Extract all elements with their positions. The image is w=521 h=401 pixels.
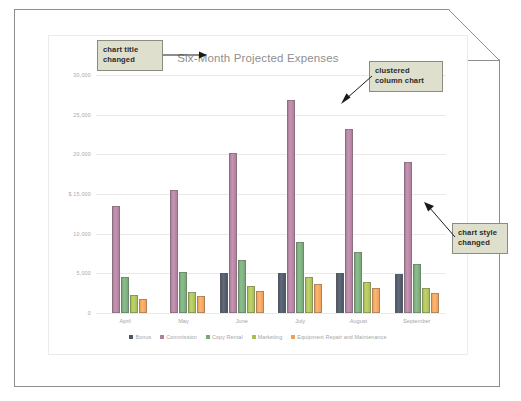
- legend-item[interactable]: Copy Rental: [206, 334, 243, 340]
- bar-equipment-repair-and-maintenance[interactable]: [372, 288, 380, 313]
- y-axis-tick-label: 0: [88, 310, 91, 316]
- bar-cluster[interactable]: April: [96, 75, 154, 313]
- callout-clustered-column-chart: clustered column chart: [369, 61, 443, 92]
- bar-copy-rental[interactable]: [354, 252, 362, 313]
- bar-commission[interactable]: [404, 162, 412, 313]
- y-axis-tick-label: 5,000: [77, 270, 92, 276]
- x-axis-tick-label: July: [295, 318, 305, 324]
- callout-chart-style-changed: chart style changed: [452, 223, 508, 254]
- y-axis-tick-label: 25,000: [73, 112, 91, 118]
- bar-commission[interactable]: [229, 153, 237, 313]
- gridline: [96, 313, 446, 314]
- y-axis-tick-label: 10,000: [73, 231, 91, 237]
- x-axis-tick-label: June: [236, 318, 248, 324]
- bar-cluster[interactable]: May: [154, 75, 212, 313]
- legend-item[interactable]: Commission: [160, 334, 197, 340]
- legend-label: Equipment Repair and Maintenance: [297, 334, 386, 340]
- bar-copy-rental[interactable]: [413, 264, 421, 313]
- bar-cluster[interactable]: September: [388, 75, 446, 313]
- legend-item[interactable]: Bonus: [129, 334, 151, 340]
- bar-copy-rental[interactable]: [238, 260, 246, 313]
- bar-cluster[interactable]: July: [271, 75, 329, 313]
- legend-swatch-icon: [206, 335, 210, 339]
- callout-chart-title-changed: chart title changed: [97, 40, 163, 71]
- bar-equipment-repair-and-maintenance[interactable]: [256, 291, 264, 313]
- legend-swatch-icon: [160, 335, 164, 339]
- legend-swatch-icon: [291, 335, 295, 339]
- bar-copy-rental[interactable]: [296, 242, 304, 313]
- legend-label: Copy Rental: [212, 334, 243, 340]
- bar-marketing[interactable]: [363, 282, 371, 313]
- bar-commission[interactable]: [345, 129, 353, 313]
- bar-clusters: AprilMayJuneJulyAugustSeptember: [96, 75, 446, 313]
- bar-bonus[interactable]: [336, 273, 344, 313]
- chart-legend[interactable]: BonusCommissionCopy RentalMarketingEquip…: [49, 334, 467, 340]
- x-axis-tick-label: September: [403, 318, 430, 324]
- bar-equipment-repair-and-maintenance[interactable]: [139, 299, 147, 313]
- bar-copy-rental[interactable]: [121, 277, 129, 313]
- legend-label: Marketing: [258, 334, 283, 340]
- bar-cluster[interactable]: June: [213, 75, 271, 313]
- y-axis-tick-label: $ 15,000: [68, 191, 91, 197]
- bar-equipment-repair-and-maintenance[interactable]: [314, 284, 322, 313]
- bar-equipment-repair-and-maintenance[interactable]: [197, 296, 205, 313]
- bar-marketing[interactable]: [130, 295, 138, 313]
- legend-swatch-icon: [252, 335, 256, 339]
- bar-marketing[interactable]: [247, 286, 255, 313]
- bar-bonus[interactable]: [395, 274, 403, 313]
- legend-label: Commission: [166, 334, 197, 340]
- bar-commission[interactable]: [287, 100, 295, 313]
- legend-item[interactable]: Marketing: [252, 334, 283, 340]
- bar-marketing[interactable]: [188, 292, 196, 313]
- bar-bonus[interactable]: [278, 273, 286, 313]
- bar-marketing[interactable]: [305, 277, 313, 313]
- legend-swatch-icon: [129, 335, 133, 339]
- y-axis-tick-label: 30,000: [73, 72, 91, 78]
- bar-marketing[interactable]: [422, 288, 430, 313]
- bar-copy-rental[interactable]: [179, 272, 187, 313]
- x-axis-tick-label: May: [178, 318, 189, 324]
- bar-bonus[interactable]: [220, 273, 228, 313]
- bar-commission[interactable]: [112, 206, 120, 313]
- legend-label: Bonus: [135, 334, 151, 340]
- bar-equipment-repair-and-maintenance[interactable]: [431, 293, 439, 313]
- x-axis-tick-label: April: [120, 318, 131, 324]
- bar-cluster[interactable]: August: [329, 75, 387, 313]
- y-axis-tick-label: 20,000: [73, 151, 91, 157]
- legend-item[interactable]: Equipment Repair and Maintenance: [291, 334, 386, 340]
- x-axis-tick-label: August: [350, 318, 367, 324]
- plot-area: 05,00010,000$ 15,00020,00025,00030,000 A…: [96, 75, 446, 313]
- bar-commission[interactable]: [170, 190, 178, 313]
